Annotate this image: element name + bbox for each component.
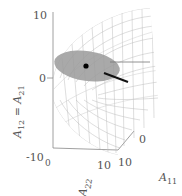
y-tick-0: 0 bbox=[39, 73, 46, 84]
y-tick-neg10: -10 bbox=[26, 152, 44, 163]
a22-axis-title: A22 bbox=[77, 177, 94, 196]
surface-plot bbox=[0, 0, 182, 196]
a22-tick-0: 0 bbox=[45, 159, 51, 168]
a11-tick-0: 0 bbox=[139, 134, 146, 145]
y-tick-10: 10 bbox=[33, 10, 47, 21]
a11-tick-10: 10 bbox=[118, 157, 132, 168]
y-axis-title: A12 = A21 bbox=[12, 86, 26, 138]
a11-axis-title: A11 bbox=[159, 172, 177, 186]
a22-tick-10: 10 bbox=[97, 160, 111, 171]
center-point bbox=[83, 63, 88, 68]
